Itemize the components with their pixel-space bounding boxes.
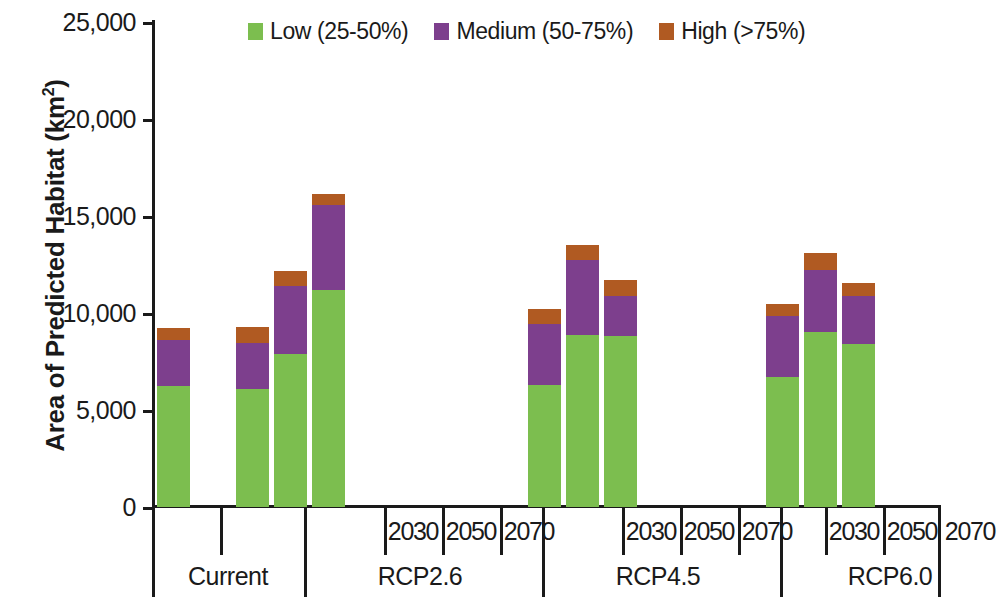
bar-segment-low — [804, 332, 837, 507]
y-axis-title-tail: ) — [40, 79, 70, 87]
bar-segment-low — [312, 290, 345, 507]
x-axis-year-cell-rcp60-2050: 2050 — [883, 508, 941, 555]
x-axis-category-table: 203020502070203020502070203020502070Curr… — [152, 508, 941, 597]
bar-segment-high — [804, 253, 837, 270]
y-axis-tick-label: 0 — [0, 493, 136, 522]
bar-rcp4-5-2070 — [604, 280, 637, 507]
bar-segment-low — [274, 354, 307, 507]
bar-segment-low — [236, 389, 269, 507]
bar-segment-high — [157, 328, 190, 340]
x-axis-year-cell-rcp45-2070: 2070 — [738, 508, 796, 555]
y-axis-tick-label: 5,000 — [0, 396, 136, 425]
x-axis-year-cell-rcp45-2030: 2030 — [622, 508, 680, 555]
bar-rcp4-5-2050 — [566, 245, 599, 507]
bar-segment-low — [528, 385, 561, 507]
y-axis-tick-label: 15,000 — [0, 202, 136, 231]
bar-rcp2-6-2050 — [274, 271, 307, 507]
x-axis-year-cell-rcp45-2050: 2050 — [680, 508, 738, 555]
y-axis-tick-label: 20,000 — [0, 105, 136, 134]
bar-segment-medium — [236, 343, 269, 390]
bar-segment-high — [236, 327, 269, 343]
bar-segment-medium — [842, 296, 875, 345]
bar-rcp2-6-2070 — [312, 194, 345, 507]
y-axis-tick-label: 10,000 — [0, 299, 136, 328]
bar-segment-low — [566, 335, 599, 507]
x-axis-year-cell-rcp26-2070: 2070 — [500, 508, 558, 555]
bar-segment-high — [528, 309, 561, 324]
bar-segment-low — [842, 344, 875, 507]
bar-segment-medium — [604, 296, 637, 336]
bar-segment-medium — [312, 205, 345, 290]
bar-segment-low — [604, 336, 637, 507]
bar-rcp6-0-2050 — [804, 253, 837, 507]
bar-rcp6-0-2070 — [842, 283, 875, 507]
x-axis-scenario-current: Current — [152, 555, 304, 597]
bar-segment-high — [604, 280, 637, 296]
x-axis-year-cell-rcp60-2070: 2070 — [941, 508, 999, 555]
x-axis-year-cell-current-blank — [220, 508, 304, 555]
bar-segment-medium — [274, 286, 307, 354]
bar-segment-high — [766, 304, 799, 316]
bar-segment-high — [842, 283, 875, 296]
bar-segment-medium — [766, 316, 799, 377]
plot-area — [155, 22, 941, 507]
x-axis-year-cell-rcp60-2030: 2030 — [825, 508, 883, 555]
x-axis-scenario-rcp60: RCP6.0 — [780, 555, 1000, 597]
y-axis-title-superscript: 2 — [40, 88, 57, 97]
bar-segment-low — [157, 386, 190, 507]
y-axis-title: Area of Predicted Habitat (km2) — [40, 6, 71, 526]
x-axis-scenario-rcp45: RCP4.5 — [542, 555, 774, 597]
x-axis-year-cell-rcp26-2050: 2050 — [442, 508, 500, 555]
bar-rcp4-5-2030 — [528, 309, 561, 507]
bar-segment-medium — [804, 270, 837, 332]
bar-segment-high — [566, 245, 599, 260]
x-axis-scenario-rcp26: RCP2.6 — [304, 555, 536, 597]
y-axis-tick-label: 25,000 — [0, 8, 136, 37]
bar-segment-medium — [528, 324, 561, 385]
bar-segment-medium — [566, 260, 599, 336]
bar-segment-low — [766, 377, 799, 507]
bar-segment-medium — [157, 340, 190, 386]
bar-rcp2-6-2030 — [236, 327, 269, 507]
x-axis-year-cell-rcp26-2030: 2030 — [384, 508, 442, 555]
bar-rcp6-0-2030 — [766, 304, 799, 507]
bar-current — [157, 328, 190, 507]
bar-segment-high — [274, 271, 307, 286]
bar-segment-high — [312, 194, 345, 205]
